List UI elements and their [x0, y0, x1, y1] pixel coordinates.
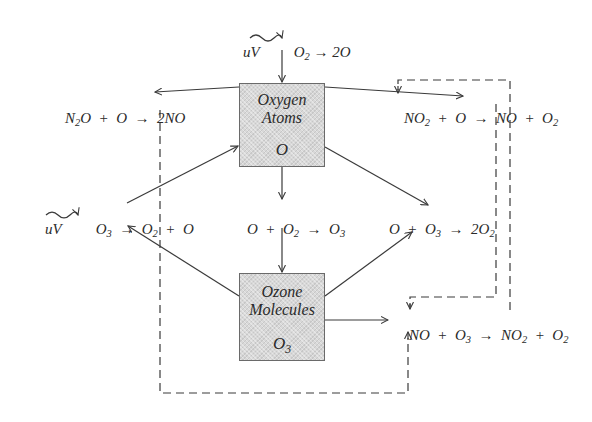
- ozone-molecules-box: Ozone Molecules O3: [239, 273, 325, 361]
- reaction-no2-o: NO2 + O → NO + O2: [389, 96, 558, 141]
- reaction-uv-o3: uVO3 → O2 + O: [30, 207, 194, 252]
- oxygen-title-2: Atoms: [240, 108, 324, 128]
- ozone-title-1: Ozone: [240, 282, 324, 302]
- arrow-oxygen-to-o-o3: [325, 147, 428, 205]
- reaction-no-o3: NO + O3 → NO2 + O2: [394, 313, 568, 358]
- reaction-uv-o2: uVO2 → 2O: [228, 30, 351, 75]
- reaction-n2o-o: N2O + O → 2NO: [50, 96, 185, 141]
- oxygen-title-1: Oxygen: [240, 90, 324, 110]
- ozone-symbol: O3: [240, 334, 324, 354]
- reaction-o-o2: O + O2 → O3: [232, 207, 345, 252]
- oxygen-atoms-box: Oxygen Atoms O: [239, 83, 325, 167]
- arrow-oxygen-to-no2-o: [325, 87, 463, 96]
- oxygen-symbol: O: [240, 140, 324, 160]
- ozone-chemistry-diagram: Oxygen Atoms O Ozone Molecules O3 uVO2 →…: [0, 0, 592, 422]
- arrow-oxygen-to-2no: [155, 87, 239, 92]
- ozone-title-2: Molecules: [240, 300, 324, 320]
- reaction-o-o3: O + O3 → 2O2: [374, 207, 495, 252]
- arrow-o2o-to-oxygen: [127, 146, 238, 203]
